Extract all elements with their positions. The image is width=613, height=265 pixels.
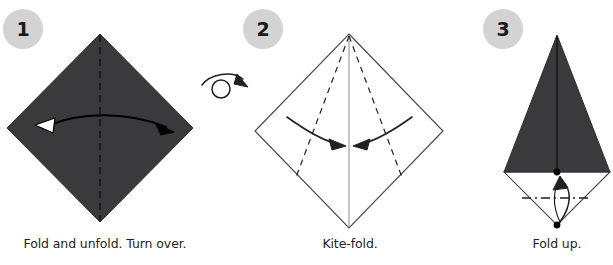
step-number-badge-2: 2 <box>243 9 283 49</box>
instruction-sheet: 1 Fold and unfold. Turn over. 2 Kite-fol… <box>0 0 613 265</box>
step-number-badge-1: 1 <box>3 9 43 49</box>
step-3 <box>445 0 613 265</box>
step-number-badge-3: 3 <box>483 9 523 49</box>
step-caption-2: Kite-fold. <box>250 236 450 251</box>
step-caption-3: Fold up. <box>470 236 613 251</box>
step-caption-1: Fold and unfold. Turn over. <box>0 236 210 251</box>
